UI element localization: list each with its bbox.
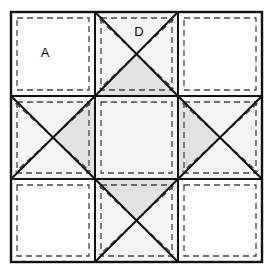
quilt-block-diagram: AD — [0, 0, 273, 278]
quilt-block-svg: AD — [0, 0, 273, 278]
corner-square-bottom-left-fill — [11, 179, 95, 262]
corner-square-bottom-right-fill — [178, 179, 262, 262]
label-a: A — [41, 45, 50, 60]
center-square-fill — [95, 96, 178, 179]
label-d: D — [134, 24, 143, 39]
corner-square-top-left-fill — [11, 12, 95, 96]
corner-square-top-right-fill — [178, 12, 262, 96]
